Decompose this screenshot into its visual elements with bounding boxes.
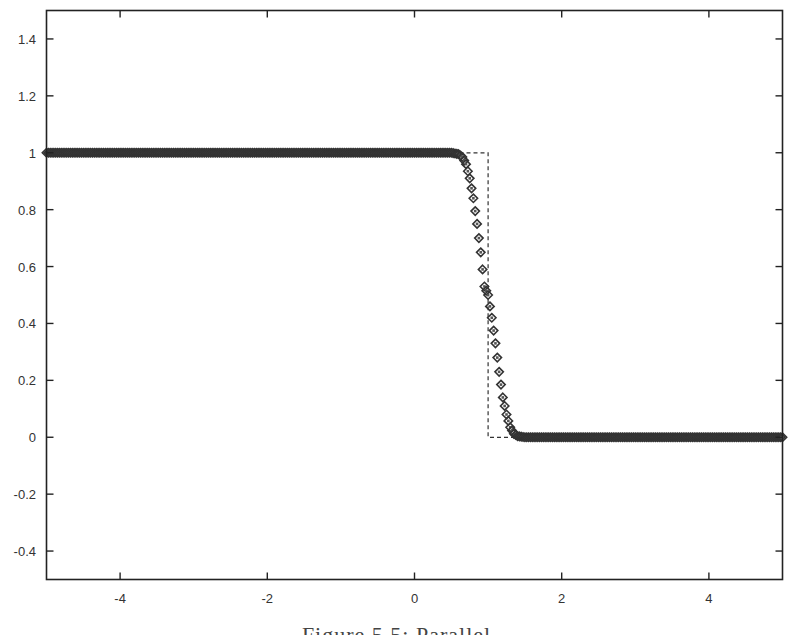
y-axis-tick-labels: -0.4-0.200.20.40.60.811.21.4 <box>14 32 36 559</box>
x-tick-label: -2 <box>262 591 274 606</box>
axis-ticks <box>47 11 783 580</box>
numerical-solution-markers <box>42 149 786 442</box>
y-tick-label: 0 <box>29 430 36 445</box>
y-tick-label: 1.4 <box>18 32 36 47</box>
step-function-plot: -4-2024 -0.4-0.200.20.40.60.811.21.4 <box>0 0 793 635</box>
x-tick-label: 4 <box>705 591 712 606</box>
y-tick-label: -0.2 <box>14 487 36 502</box>
y-tick-label: 1.2 <box>18 89 36 104</box>
x-tick-label: -4 <box>114 591 126 606</box>
y-tick-label: 0.4 <box>18 316 36 331</box>
y-tick-label: 1 <box>29 146 36 161</box>
y-tick-label: 0.2 <box>18 373 36 388</box>
y-tick-label: -0.4 <box>14 544 36 559</box>
y-tick-label: 0.6 <box>18 260 36 275</box>
exact-solution-dashed-line <box>47 153 783 438</box>
x-tick-label: 2 <box>558 591 565 606</box>
x-tick-label: 0 <box>411 591 418 606</box>
figure-caption: Figure 5.5: Parallel <box>0 622 793 635</box>
plot-frame <box>47 11 783 580</box>
y-tick-label: 0.8 <box>18 203 36 218</box>
x-axis-tick-labels: -4-2024 <box>114 591 712 606</box>
